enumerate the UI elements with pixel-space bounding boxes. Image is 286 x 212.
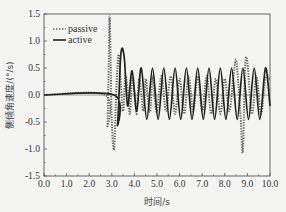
x-tick-label: 3.0	[106, 179, 118, 189]
legend-passive-label: passive	[68, 23, 98, 34]
series-active-line	[44, 48, 270, 125]
y-tick-label: 1.0	[28, 36, 40, 46]
x-axis-title: 时间/s	[144, 196, 170, 207]
x-tick-label: 7.0	[196, 179, 208, 189]
y-tick-label: 0.5	[28, 63, 40, 73]
x-tick-label: 8.0	[219, 179, 231, 189]
x-tick-label: 10.0	[262, 179, 279, 189]
y-tick-label: -1.0	[25, 144, 40, 154]
x-tick-label: 6.0	[174, 179, 186, 189]
line-chart: 1.51.00.50.0-0.5-1.0-1.5 0.01.02.03.04.0…	[0, 0, 286, 212]
x-tick-label: 4.0	[128, 179, 140, 189]
y-tick-label: -0.5	[25, 117, 40, 127]
x-tick-label: 2.0	[83, 179, 95, 189]
x-tick-label: 5.0	[151, 179, 163, 189]
legend: passive active	[53, 23, 98, 45]
y-axis-title: 侧倾角速度/(°/s)	[4, 61, 15, 128]
x-tick-label: 0.0	[38, 179, 50, 189]
y-tick-label: 0.0	[28, 90, 40, 100]
y-tick-label: 1.5	[28, 9, 40, 19]
legend-active-label: active	[68, 34, 92, 45]
x-axis-ticks: 0.01.02.03.04.05.06.07.08.09.010.0	[38, 173, 279, 189]
x-tick-label: 9.0	[241, 179, 253, 189]
x-tick-label: 1.0	[61, 179, 73, 189]
